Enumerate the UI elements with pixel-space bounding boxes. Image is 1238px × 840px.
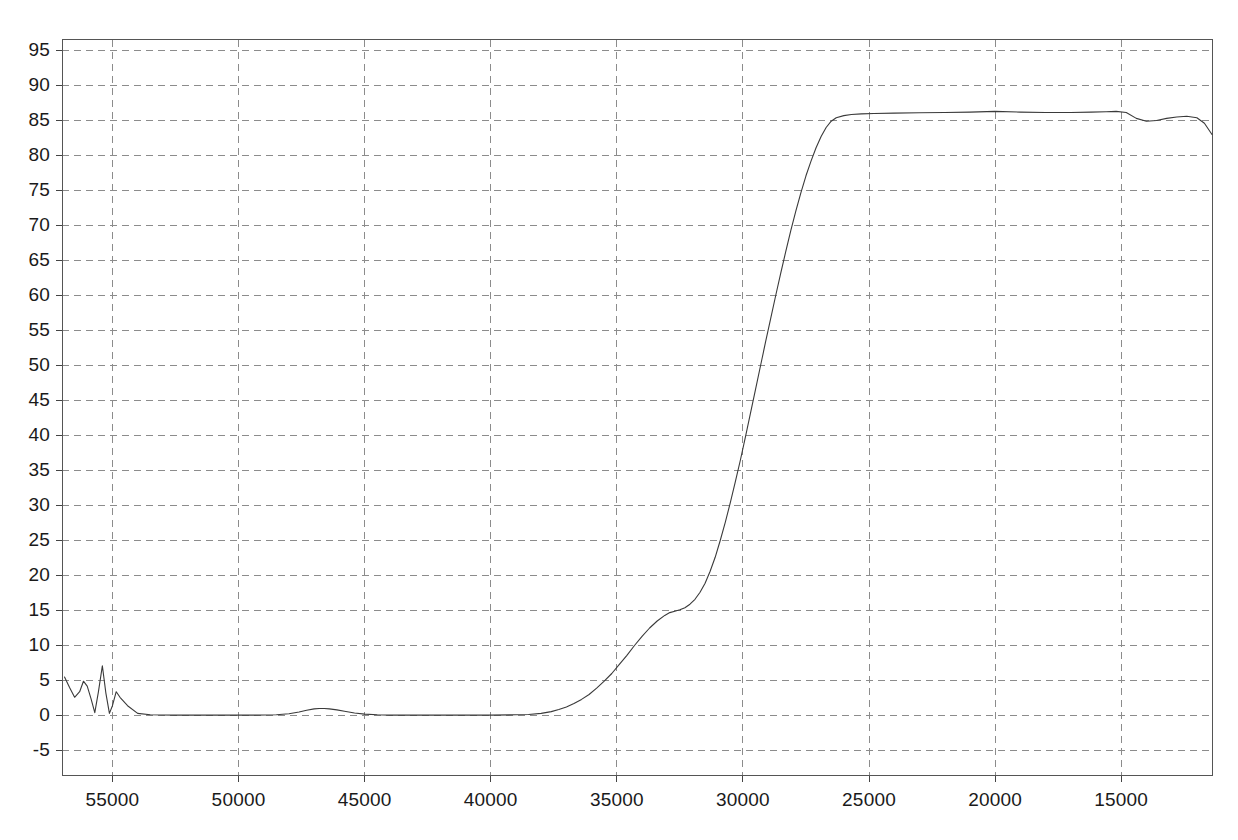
- x-tick-label: 25000: [799, 789, 939, 811]
- x-tick-label: 20000: [925, 789, 1065, 811]
- y-tick-label: 65: [0, 249, 50, 271]
- x-tick-label: 30000: [673, 789, 813, 811]
- x-tick-label: 45000: [295, 789, 435, 811]
- y-tick-label: 45: [0, 389, 50, 411]
- y-tick-label: 90: [0, 74, 50, 96]
- y-tick-label: 15: [0, 599, 50, 621]
- plot-area: [0, 0, 1238, 840]
- y-tick-label: 55: [0, 319, 50, 341]
- y-tick-label: 50: [0, 354, 50, 376]
- y-tick-label: 5: [0, 669, 50, 691]
- y-tick-label: 70: [0, 214, 50, 236]
- x-tick-label: 35000: [547, 789, 687, 811]
- y-tick-label: -5: [0, 739, 50, 761]
- y-tick-label: 75: [0, 179, 50, 201]
- x-tick-label: 55000: [42, 789, 182, 811]
- y-tick-label: 40: [0, 424, 50, 446]
- plot-border: [62, 39, 1212, 775]
- y-tick-label: 25: [0, 529, 50, 551]
- y-tick-label: 35: [0, 459, 50, 481]
- y-tick-label: 85: [0, 109, 50, 131]
- y-tick-label: 60: [0, 284, 50, 306]
- x-tick-label: 40000: [421, 789, 561, 811]
- data-series-line: [65, 111, 1212, 715]
- y-tick-label: 30: [0, 494, 50, 516]
- y-tick-label: 20: [0, 564, 50, 586]
- y-tick-label: 80: [0, 144, 50, 166]
- y-tick-label: 0: [0, 704, 50, 726]
- x-tick-label: 50000: [169, 789, 309, 811]
- y-tick-label: 95: [0, 39, 50, 61]
- y-tick-label: 10: [0, 634, 50, 656]
- x-tick-label: 15000: [1051, 789, 1191, 811]
- spectrum-chart: -505101520253035404550556065707580859095…: [0, 0, 1238, 840]
